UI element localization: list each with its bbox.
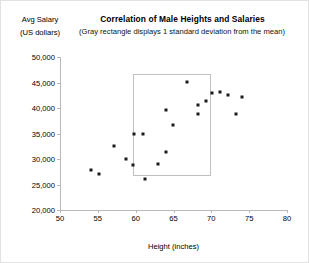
y-tick-label: 20,000 [32,206,55,215]
x-tick-label: 50 [56,214,64,223]
y-tick-label: 45,000 [32,78,55,87]
y-tick-label: 35,000 [32,129,55,138]
x-tick [287,210,288,213]
scatter-point [186,80,189,83]
y-tick [57,159,60,160]
scatter-point [171,124,174,127]
scatter-point [211,92,214,95]
scatter-point [235,113,238,116]
x-tick-label: 55 [94,214,102,223]
scatter-point [196,104,199,107]
scatter-point [205,100,208,103]
x-tick [136,210,137,213]
y-tick [57,57,60,58]
scatter-point [133,133,136,136]
scatter-point [226,94,229,97]
y-tick [57,185,60,186]
x-tick-label: 65 [169,214,177,223]
chart-title: Correlation of Male Heights and Salaries [61,14,304,24]
x-tick [211,210,212,213]
scatter-point [196,113,199,116]
scatter-point [124,158,127,161]
x-tick-label: 60 [131,214,139,223]
scatter-point [240,96,243,99]
x-tick-label: 70 [207,214,215,223]
scatter-point [90,168,93,171]
x-axis-label: Height (inches) [60,242,287,251]
y-tick-label: 40,000 [32,104,55,113]
x-tick-label: 80 [283,214,291,223]
x-tick-label: 75 [245,214,253,223]
x-tick [98,210,99,213]
y-axis-label-line1: Avg Salary [9,15,71,24]
scatter-point [143,178,146,181]
chart-subtitle: (Gray rectangle displays 1 standard devi… [59,27,305,36]
scatter-point [164,109,167,112]
y-tick-label: 30,000 [32,155,55,164]
plot-area: 20,00025,00030,00035,00040,00045,00050,0… [60,57,287,210]
x-tick [174,210,175,213]
y-tick [57,83,60,84]
y-tick [57,108,60,109]
scatter-point [131,163,134,166]
scatter-point [142,133,145,136]
scatter-point [97,172,100,175]
scatter-point [156,163,159,166]
x-tick [249,210,250,213]
y-axis-line [60,57,61,211]
y-axis-label-line2: (US dollars) [9,28,71,37]
scatter-point [164,151,167,154]
y-tick-label: 50,000 [32,53,55,62]
chart-figure: Correlation of Male Heights and Salaries… [0,0,309,263]
y-tick-label: 25,000 [32,180,55,189]
x-tick [60,210,61,213]
scatter-point [112,144,115,147]
y-tick [57,134,60,135]
scatter-point [219,91,222,94]
